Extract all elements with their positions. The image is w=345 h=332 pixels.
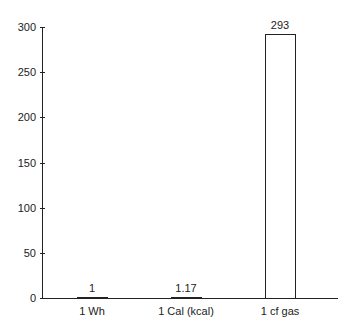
y-tick <box>40 27 45 28</box>
bar <box>77 297 108 299</box>
y-tick-label: 100 <box>6 202 36 214</box>
y-tick-label: 300 <box>6 21 36 33</box>
y-tick-label: 250 <box>6 66 36 78</box>
bar <box>171 297 202 299</box>
y-tick <box>40 298 45 299</box>
y-tick-label: 50 <box>6 247 36 259</box>
bar <box>265 34 296 299</box>
y-tick-label: 0 <box>6 292 36 304</box>
y-tick <box>40 72 45 73</box>
bar-value-label: 293 <box>250 19 310 31</box>
y-tick <box>40 253 45 254</box>
x-tick-label: 1 cf gas <box>235 305 325 317</box>
y-tick-label: 150 <box>6 157 36 169</box>
y-tick <box>40 208 45 209</box>
x-tick-label: 1 Cal (kcal) <box>141 305 231 317</box>
y-tick <box>40 163 45 164</box>
y-tick <box>40 117 45 118</box>
bar-value-label: 1 <box>62 282 122 294</box>
bar-value-label: 1.17 <box>156 282 216 294</box>
y-tick-label: 200 <box>6 111 36 123</box>
x-tick-label: 1 Wh <box>47 305 137 317</box>
